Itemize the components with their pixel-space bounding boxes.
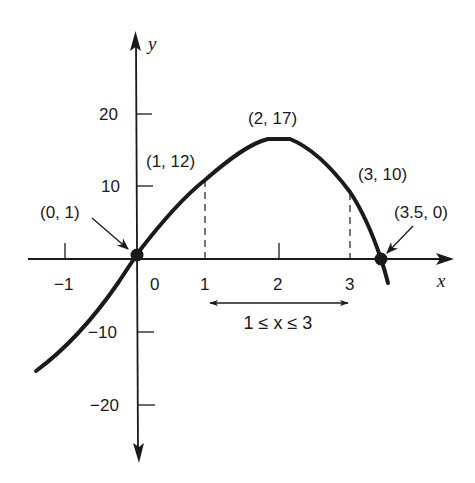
x-axis	[28, 243, 454, 265]
x-tick-label-0: 0	[150, 275, 159, 294]
point-dot-0-1	[131, 249, 144, 262]
y-axis-label: y	[146, 33, 157, 54]
y-tick-label-m10: −10	[88, 323, 117, 342]
x-tick-label-3: 3	[345, 275, 354, 294]
y-tick-label-10: 10	[101, 177, 120, 196]
x-axis-label: x	[436, 270, 446, 291]
point-dot-3-5-0	[375, 253, 388, 266]
point-label-0-1: (0, 1)	[40, 203, 80, 222]
x-tick-label-m1: −1	[54, 275, 73, 294]
pointer-arrow-3-5-0	[387, 226, 413, 253]
point-label-3-5-0: (3.5, 0)	[394, 203, 448, 222]
interval-label: 1 ≤ x ≤ 3	[244, 313, 313, 333]
x-tick-label-1: 1	[200, 275, 209, 294]
y-tick-label-m20: −20	[90, 396, 119, 415]
pointer-arrow-0-1	[92, 218, 128, 249]
point-label-1-12: (1, 12)	[146, 152, 195, 171]
point-label-2-17: (2, 17)	[248, 109, 297, 128]
function-graph: y x −1 0 1 2 3 20 10 −10 −20 (0, 1) (1, …	[0, 0, 475, 483]
point-label-3-10: (3, 10)	[358, 165, 407, 184]
y-tick-label-20: 20	[99, 105, 118, 124]
x-tick-label-2: 2	[273, 275, 282, 294]
